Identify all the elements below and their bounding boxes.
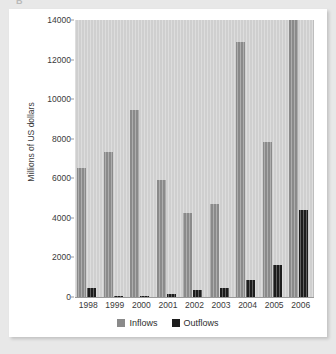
bar-group-2006 — [287, 20, 314, 297]
bar-outflows-2003 — [220, 288, 229, 297]
bar-group-2002 — [181, 20, 208, 297]
legend-swatch-outflows — [172, 319, 180, 327]
y-axis-tick-mark — [71, 297, 74, 298]
legend-item-outflows[interactable]: Outflows — [172, 318, 219, 328]
x-axis-tick-label-1999: 1999 — [101, 300, 129, 310]
x-axis-tick-label-2006: 2006 — [287, 300, 315, 310]
bar-inflows-1998 — [77, 168, 86, 297]
y-axis-tick-label: 8000 — [13, 134, 71, 144]
legend-label-inflows: Inflows — [129, 318, 157, 328]
bar-group-2005 — [261, 20, 288, 297]
bar-inflows-2005 — [263, 142, 272, 297]
bar-inflows-2006 — [289, 20, 298, 297]
bar-outflows-2005 — [273, 265, 282, 297]
y-axis-tick-mark — [71, 99, 74, 100]
bar-group-1998 — [75, 20, 102, 297]
chart-card: Millions of US dollars 02000400060008000… — [9, 9, 327, 337]
bar-outflows-2004 — [246, 280, 255, 297]
y-axis-tick-label: 14000 — [13, 15, 71, 25]
legend-swatch-inflows — [117, 319, 125, 327]
chart-legend: InflowsOutflows — [9, 318, 327, 328]
y-axis-tick-label: 4000 — [13, 213, 71, 223]
x-axis-tick-label-2004: 2004 — [234, 300, 262, 310]
x-axis-tick-label-2003: 2003 — [207, 300, 235, 310]
bar-inflows-2002 — [183, 213, 192, 297]
bar-inflows-2001 — [157, 180, 166, 297]
bar-inflows-2004 — [236, 42, 245, 297]
x-axis-tick-label-1998: 1998 — [74, 300, 102, 310]
bar-group-2000 — [128, 20, 155, 297]
bar-outflows-2006 — [299, 210, 308, 297]
y-axis-tick-mark — [71, 138, 74, 139]
grouped-bar-chart: Millions of US dollars 02000400060008000… — [9, 9, 327, 337]
x-axis-tick-label-2001: 2001 — [154, 300, 182, 310]
x-axis-tick-group: 199819992000200120022003200420052006 — [75, 300, 314, 316]
bar-group-1999 — [102, 20, 129, 297]
y-axis-tick-mark — [71, 257, 74, 258]
y-axis-tick-mark — [71, 217, 74, 218]
y-axis-tick-group: 02000400060008000100001200014000 — [9, 9, 71, 337]
y-axis-tick-mark — [71, 59, 74, 60]
bar-inflows-2000 — [130, 110, 139, 297]
y-axis-tick-label: 0 — [13, 292, 71, 302]
bar-outflows-2002 — [193, 290, 202, 297]
bar-inflows-2003 — [210, 204, 219, 297]
plot-area — [75, 20, 314, 297]
y-axis-tick-label: 6000 — [13, 173, 71, 183]
x-axis-line — [75, 297, 314, 298]
x-axis-tick-label-2005: 2005 — [260, 300, 288, 310]
y-axis-tick-label: 12000 — [13, 55, 71, 65]
x-axis-tick-label-2002: 2002 — [181, 300, 209, 310]
bar-group-2004 — [234, 20, 261, 297]
y-axis-tick-mark — [71, 178, 74, 179]
bar-group-2003 — [208, 20, 235, 297]
legend-item-inflows[interactable]: Inflows — [117, 318, 157, 328]
x-axis-tick-label-2000: 2000 — [127, 300, 155, 310]
y-axis-tick-mark — [71, 20, 74, 21]
bar-group-2001 — [155, 20, 182, 297]
legend-label-outflows: Outflows — [184, 318, 219, 328]
figure-panel-label: B — [16, 0, 23, 4]
y-axis-tick-label: 2000 — [13, 252, 71, 262]
y-axis-tick-label: 10000 — [13, 94, 71, 104]
bar-inflows-1999 — [104, 152, 113, 297]
bar-outflows-1998 — [87, 288, 96, 297]
